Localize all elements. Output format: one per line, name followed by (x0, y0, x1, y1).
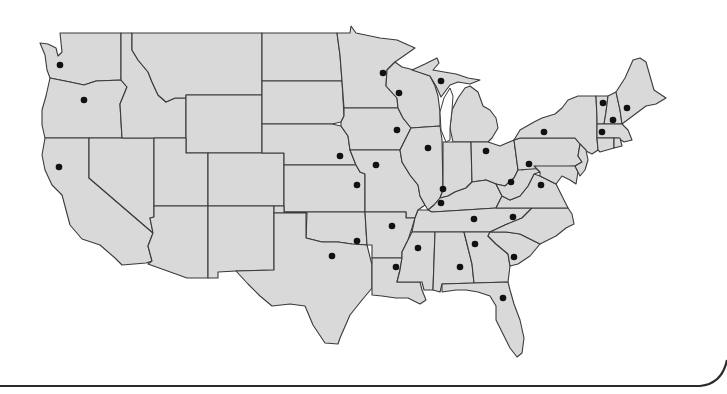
state-connecticut (597, 138, 614, 152)
states-layer (40, 26, 666, 357)
location-marker (610, 117, 617, 124)
state-wyoming (186, 95, 262, 153)
location-marker (471, 216, 478, 223)
location-marker (526, 161, 533, 168)
us-map (0, 0, 727, 394)
location-marker (538, 182, 545, 189)
state-south-dakota (262, 81, 344, 124)
state-colorado (208, 153, 284, 206)
location-marker (81, 97, 88, 104)
location-marker (389, 223, 396, 230)
location-marker (500, 295, 507, 302)
location-marker (354, 238, 361, 245)
frame-border (0, 360, 727, 386)
location-marker (472, 241, 479, 248)
location-marker (329, 253, 336, 260)
state-pennsylvania (514, 138, 582, 170)
location-marker (599, 129, 606, 136)
location-marker (380, 70, 387, 77)
location-marker (415, 245, 422, 252)
location-marker (425, 145, 432, 152)
state-kansas (284, 165, 365, 212)
state-michigan-lower (450, 86, 498, 142)
state-arizona (148, 206, 208, 278)
location-marker (56, 164, 63, 171)
location-marker (624, 105, 631, 112)
location-marker (483, 148, 490, 155)
location-marker (337, 153, 344, 160)
location-marker (511, 254, 518, 261)
location-marker (394, 127, 401, 134)
location-marker (57, 62, 64, 69)
location-marker (373, 162, 380, 169)
state-maine (616, 58, 666, 124)
location-marker (440, 186, 447, 193)
state-florida (442, 282, 524, 357)
location-marker (438, 200, 445, 207)
location-marker (457, 264, 464, 271)
location-marker (396, 90, 403, 97)
location-marker (354, 182, 361, 189)
location-marker (393, 264, 400, 271)
state-oregon (42, 78, 127, 138)
location-marker (600, 100, 607, 107)
location-marker (510, 214, 517, 221)
location-marker (541, 129, 548, 136)
state-iowa (341, 108, 411, 150)
state-north-dakota (262, 33, 342, 81)
state-washington (40, 33, 121, 85)
state-rhode-island (614, 138, 622, 148)
location-marker (508, 179, 515, 186)
state-new-mexico (208, 206, 274, 278)
location-marker (438, 78, 445, 85)
